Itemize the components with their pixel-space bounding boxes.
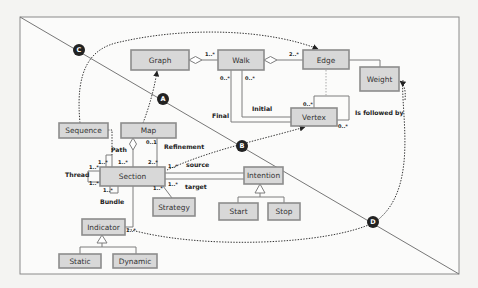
label-initial: Initial [252,105,272,112]
class-map[interactable]: Map [121,123,176,138]
label-target: target [185,183,207,191]
svg-text:1..*: 1..* [89,164,99,170]
class-stop-label: Stop [276,207,293,216]
marker-b: B [236,140,248,152]
svg-text:1..*: 1..* [168,163,178,169]
class-edge[interactable]: Edge [303,50,349,69]
svg-text:B: B [240,142,245,150]
class-strategy-label: Strategy [158,203,190,212]
label-thread: Thread [65,171,89,178]
svg-text:1..*: 1..* [98,159,108,165]
label-final: Final [212,112,229,119]
label-is-followed-by: Is followed by [355,109,404,117]
svg-text:A: A [160,95,165,103]
marker-a: A [157,93,169,105]
svg-text:0..*: 0..* [338,123,348,129]
class-static[interactable]: Static [59,254,101,268]
class-intention[interactable]: Intention [244,167,283,184]
marker-d: D [367,216,379,228]
svg-text:1..*: 1..* [205,51,215,57]
class-strategy[interactable]: Strategy [153,198,195,216]
class-dynamic[interactable]: Dynamic [113,254,157,268]
class-section-label: Section [119,172,147,181]
label-bundle: Bundle [100,198,124,205]
class-indicator[interactable]: Indicator [82,219,125,235]
class-static-label: Static [69,257,90,266]
svg-text:0..*: 0..* [245,75,255,81]
class-start[interactable]: Start [219,203,258,220]
class-map-label: Map [141,126,157,135]
svg-text:D: D [370,218,376,226]
class-vertex[interactable]: Vertex [291,108,337,126]
svg-text:1..*: 1..* [103,187,113,193]
class-sequence-label: Sequence [65,126,102,135]
class-walk-label: Walk [232,56,250,65]
svg-text:1..*: 1..* [118,159,128,165]
class-intention-label: Intention [247,171,280,180]
svg-text:2..*: 2..* [148,159,158,165]
class-graph[interactable]: Graph [131,50,189,70]
class-sequence[interactable]: Sequence [59,123,108,138]
class-indicator-label: Indicator [87,223,121,232]
class-section[interactable]: Section [100,167,165,186]
class-dynamic-label: Dynamic [119,257,152,266]
class-vertex-label: Vertex [302,113,326,122]
class-start-label: Start [229,207,247,216]
svg-text:0..*: 0..* [220,75,230,81]
label-refinement: Refinement [164,143,204,150]
class-weight[interactable]: Weight [360,67,399,91]
class-walk[interactable]: Walk [218,50,264,70]
uml-diagram: Graph Walk Edge Weight Vertex Sequence M… [0,0,478,288]
svg-text:1..*: 1..* [168,181,178,187]
class-weight-label: Weight [367,75,393,84]
marker-c: C [73,44,85,56]
class-edge-label: Edge [317,56,336,65]
class-stop[interactable]: Stop [268,203,300,220]
svg-text:1..*: 1..* [89,180,99,186]
svg-text:1..*: 1..* [126,227,136,233]
class-graph-label: Graph [149,56,172,65]
svg-text:1..*: 1..* [153,185,163,191]
svg-text:0..1: 0..1 [146,139,157,145]
svg-text:2..*: 2..* [289,51,299,57]
label-source: source [186,161,209,168]
svg-text:C: C [77,46,82,54]
svg-text:0..*: 0..* [303,101,313,107]
label-path: Path [111,146,127,153]
